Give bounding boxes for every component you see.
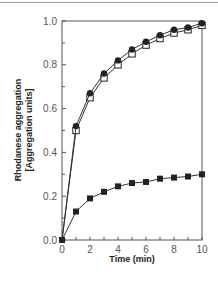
data-point-filled-square — [171, 175, 177, 181]
y-tick-label: 0.0 — [43, 235, 57, 246]
series-open-square — [62, 22, 205, 240]
x-tick-label: 8 — [171, 244, 177, 255]
y-tick-label: 1.0 — [43, 16, 57, 27]
data-point-filled-circle — [101, 70, 107, 76]
y-tick-label: 0.8 — [43, 59, 57, 70]
series-line — [62, 25, 202, 240]
data-point-filled-square — [115, 183, 121, 189]
data-point-filled-square — [185, 173, 191, 179]
y-tick-label: 0.2 — [43, 191, 57, 202]
y-axis-ticks: 0.00.20.40.60.81.0 — [43, 16, 66, 246]
data-series — [59, 20, 205, 243]
data-point-filled-square — [129, 180, 135, 186]
x-tick-label: 2 — [87, 244, 93, 255]
data-point-filled-circle — [87, 90, 93, 96]
x-tick-label: 0 — [59, 244, 65, 255]
data-point-filled-square — [199, 171, 205, 177]
aggregation-chart: 0246810 0.00.20.40.60.81.0 Time (min) Rh… — [0, 0, 218, 285]
data-point-filled-square — [73, 209, 79, 215]
data-point-filled-circle — [157, 32, 163, 38]
y-axis-title: Rhodanese aggregation [Aggregation units… — [13, 79, 34, 182]
data-point-filled-circle — [143, 39, 149, 45]
data-point-filled-square — [87, 195, 93, 201]
data-point-filled-circle — [129, 46, 135, 52]
data-point-filled-circle — [115, 57, 121, 63]
data-point-filled-circle — [73, 123, 79, 129]
data-point-filled-square — [143, 179, 149, 185]
y-axis-title-line1: Rhodanese aggregation — [13, 79, 23, 182]
data-point-filled-circle — [171, 27, 177, 33]
data-point-filled-circle — [199, 20, 205, 26]
y-axis-title-line2: [Aggregation units] — [24, 89, 34, 172]
series-filled-square — [59, 171, 205, 243]
x-tick-label: 10 — [196, 244, 208, 255]
data-point-filled-circle — [185, 24, 191, 30]
y-tick-label: 0.4 — [43, 147, 57, 158]
data-point-filled-square — [157, 176, 163, 182]
x-axis-title: Time (min) — [109, 254, 154, 264]
data-point-filled-square — [101, 189, 107, 195]
y-tick-label: 0.6 — [43, 103, 57, 114]
